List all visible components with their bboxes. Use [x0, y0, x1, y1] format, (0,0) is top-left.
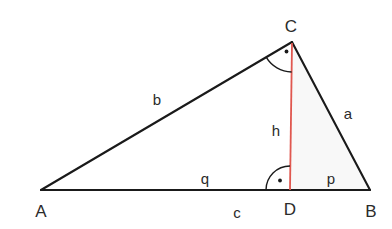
vertex-label-B: B — [365, 203, 376, 220]
right-angle-dot-at-D — [278, 179, 282, 183]
side-b-line — [41, 42, 292, 190]
right-angle-arc-at-D — [266, 166, 290, 190]
triangle-figure — [0, 0, 392, 229]
vertex-label-A: A — [35, 203, 46, 220]
segment-label-a: a — [344, 106, 352, 121]
segment-label-p: p — [327, 171, 335, 186]
vertex-label-C: C — [285, 18, 297, 35]
geometry-diagram: A B C D b a h q p c — [0, 0, 392, 229]
segment-label-c: c — [233, 205, 241, 220]
right-angle-arc-at-C — [266, 57, 291, 72]
right-angle-dot-at-C — [285, 50, 289, 54]
segment-label-q: q — [201, 171, 209, 186]
segment-label-h: h — [272, 123, 280, 138]
segment-label-b: b — [153, 92, 161, 107]
vertex-label-D: D — [284, 201, 296, 218]
